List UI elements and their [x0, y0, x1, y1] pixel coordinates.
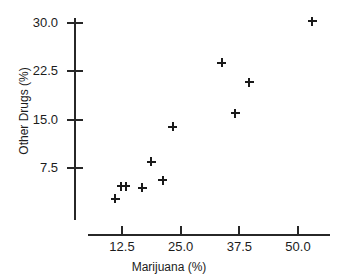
x-tick: [180, 226, 182, 236]
x-tick-label: 25.0: [151, 240, 211, 253]
data-point: [121, 182, 130, 191]
x-tick-label: 12.5: [92, 240, 152, 253]
scatter-plot-figure: 7.515.022.530.0 12.525.037.550.0 Other D…: [0, 0, 338, 274]
y-tick: [67, 119, 83, 121]
data-point: [168, 122, 177, 131]
x-tick: [238, 226, 240, 236]
y-axis-title: Other Drugs (%): [17, 41, 31, 181]
x-tick: [297, 226, 299, 236]
data-point: [217, 58, 226, 67]
x-tick: [121, 226, 123, 236]
x-axis-line: [88, 234, 330, 236]
y-tick-label: 30.0: [14, 16, 58, 29]
x-tick-label: 50.0: [268, 240, 328, 253]
y-tick: [67, 70, 83, 72]
data-point: [308, 17, 317, 26]
data-point: [158, 176, 167, 185]
data-point: [231, 109, 240, 118]
data-point: [147, 157, 156, 166]
y-tick: [67, 167, 83, 169]
x-axis-title: Marijuana (%): [0, 260, 338, 274]
data-point: [111, 194, 120, 203]
x-tick-label: 37.5: [209, 240, 269, 253]
y-tick: [67, 22, 83, 24]
data-point: [138, 183, 147, 192]
data-point: [245, 78, 254, 87]
